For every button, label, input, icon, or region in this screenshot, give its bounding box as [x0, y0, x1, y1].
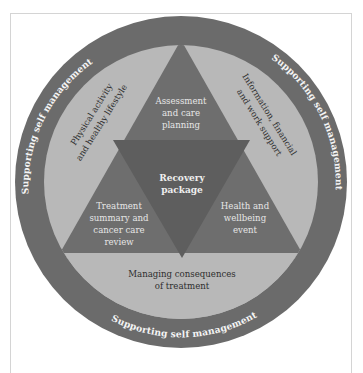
- segment-bottom-right-line1: Health and: [221, 201, 270, 211]
- center-label-line2: package: [161, 185, 203, 195]
- segment-bottom-right-line2: wellbeing: [224, 213, 267, 223]
- segment-top-line1: Assessment: [154, 96, 207, 106]
- center-label-line1: Recovery: [159, 173, 205, 183]
- segment-top-line3: planning: [162, 120, 201, 130]
- segment-bottom-left-line1: Treatment: [96, 201, 142, 211]
- band-label-bottom-line2: of treatment: [155, 281, 210, 291]
- segment-bottom-left-line4: review: [104, 237, 134, 247]
- band-label-bottom-line1: Managing consequences: [128, 269, 236, 279]
- segment-bottom-left-line3: cancer care: [93, 225, 144, 235]
- segment-bottom-left-line2: summary and: [89, 213, 149, 223]
- segment-bottom-right-line3: event: [233, 225, 258, 235]
- segment-top-line2: and care: [162, 108, 200, 118]
